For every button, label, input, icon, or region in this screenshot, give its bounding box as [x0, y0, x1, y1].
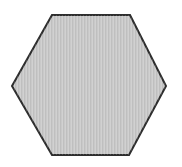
- hexagon-texture-overlay: [12, 15, 166, 155]
- hexagon-figure: [0, 0, 182, 167]
- image-canvas: [0, 0, 182, 167]
